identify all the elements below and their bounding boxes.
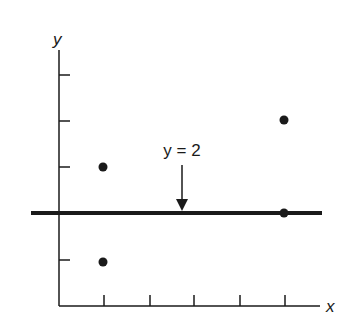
scatter-diagram: y x y = 2 — [0, 0, 353, 333]
x-axis: x — [59, 295, 335, 316]
data-point — [99, 258, 108, 267]
data-point — [280, 209, 289, 218]
data-point — [280, 116, 289, 125]
x-axis-label: x — [325, 297, 335, 316]
reference-line-annotation: y = 2 — [163, 141, 200, 211]
y-axis-label: y — [52, 30, 63, 49]
y-axis: y — [52, 30, 70, 306]
annotation-label: y = 2 — [163, 141, 200, 160]
data-points — [99, 116, 289, 267]
data-point — [99, 163, 108, 172]
arrow-down-icon — [176, 199, 188, 211]
